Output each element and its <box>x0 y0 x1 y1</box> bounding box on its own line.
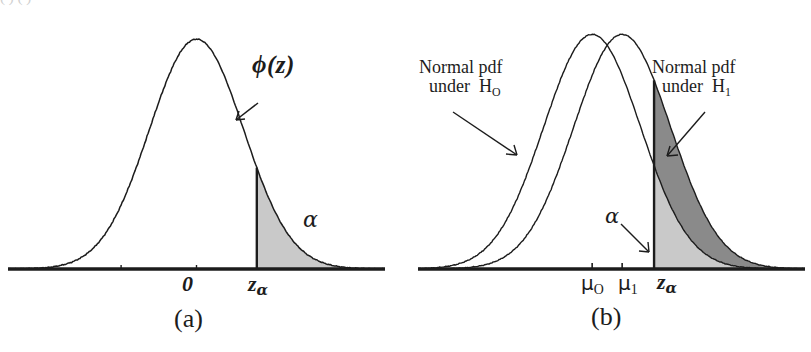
tick-label-z-alpha-a: zα <box>248 272 268 299</box>
panel-a: ϕ(z) α 0 zα (a) <box>0 0 405 352</box>
mu1-subscript: 1 <box>631 282 638 297</box>
alpha-label-b: α <box>605 205 619 227</box>
alpha-label-a: α <box>303 208 318 231</box>
label-h1-line2: under H1 <box>662 77 735 98</box>
caption-a: (a) <box>174 305 203 332</box>
caption-b: (b) <box>591 303 621 330</box>
z-alpha-subscript-a: α <box>257 281 269 299</box>
h0-subscript: O <box>492 85 501 99</box>
panel-b: Normal pdf under HO Normal pdf under H1 … <box>405 0 811 352</box>
figure-canvas: ( ) ( ) ϕ(z) α 0 zα (a) <box>0 0 811 352</box>
label-normal-pdf-h0: Normal pdf under HO <box>419 58 502 98</box>
label-h0-line2: under HO <box>429 77 502 98</box>
tick-label-zero: 0 <box>182 272 193 295</box>
z-alpha-subscript-b: α <box>666 279 678 297</box>
tick-label-z-alpha-b: zα <box>657 270 677 297</box>
alpha-shaded-region-a <box>257 168 385 270</box>
panel-b-plot <box>405 0 811 352</box>
phi-z-label: ϕ(z) <box>252 52 295 78</box>
phi-label-arrow <box>236 103 258 120</box>
h1-subscript: 1 <box>725 85 731 99</box>
tick-label-mu0: μO <box>581 272 604 298</box>
label-normal-pdf-h1: Normal pdf under H1 <box>652 58 735 98</box>
mu0-subscript: O <box>594 282 604 297</box>
tick-label-mu1: μ1 <box>618 272 638 298</box>
panel-a-plot <box>0 0 405 352</box>
phi-curve <box>8 39 385 269</box>
